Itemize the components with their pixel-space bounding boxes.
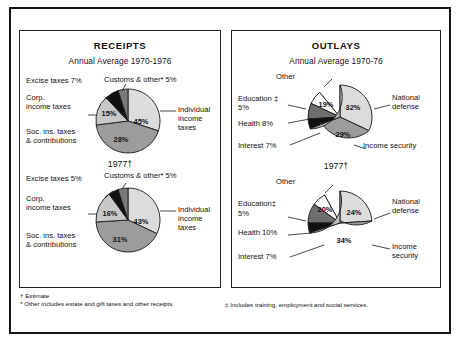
receipts-chart2-subtitle: 1977†	[20, 159, 220, 169]
receipts-2-label-soc-line1: Soc. ins. taxes	[26, 231, 75, 240]
leader-defense-2	[374, 213, 390, 219]
receipts-2-value-social: 31%	[113, 235, 128, 244]
receipts-chart1-pie: 45% 28% 15%	[80, 81, 180, 159]
receipts-1-label-individual-line3: taxes	[178, 123, 196, 132]
receipts-1-value-individual: 45%	[134, 117, 149, 126]
outlays-1-label-education-line1: Education ‡	[238, 94, 278, 103]
receipts-title: RECEIPTS	[20, 40, 220, 51]
receipts-2-label-corp-line1: Corp.	[26, 194, 45, 203]
leader-other-1	[324, 79, 332, 87]
receipts-1-label-individual-line2: income	[178, 114, 202, 123]
leader-interest-2	[290, 245, 324, 257]
leader-income-security-2	[372, 245, 390, 249]
receipts-2-label-individual-line3: taxes	[178, 223, 196, 232]
leader-health-2	[288, 233, 312, 235]
outlays-2-label-health: Health 10%	[238, 228, 277, 237]
receipts-chart2-pie: 43% 31% 16%	[80, 179, 180, 259]
outlays-2-label-education-line1: Education‡	[238, 199, 276, 208]
outlays-1-value-income-security: 29%	[336, 130, 351, 139]
outlays-chart1-pie: 32% 29% 19%	[288, 79, 398, 159]
receipts-2-label-corp-line2: income taxes	[26, 203, 71, 212]
receipts-2-label-soc-line2: & contributions	[26, 240, 76, 249]
receipts-1-label-corp-line2: income taxes	[26, 102, 71, 111]
receipts-2-label-excise: Excise taxes 5%	[26, 174, 82, 183]
panel-outlays: OUTLAYS Annual Average 1970-76 Other Edu…	[231, 30, 441, 288]
footnote-estimate: † Estimate	[20, 292, 250, 300]
receipts-1-label-soc-line2: & contributions	[26, 136, 76, 145]
receipts-1-value-social: 28%	[114, 135, 129, 144]
leader-other-2	[325, 185, 333, 193]
leader-income-security-1	[354, 145, 366, 149]
receipts-1-label-corp-line1: Corp.	[26, 93, 45, 102]
receipts-chart1-subtitle: Annual Average 1970-1976	[20, 56, 220, 66]
receipts-1-label-soc-line1: Soc. ins. taxes	[26, 127, 75, 136]
receipts-2-value-corp: 16%	[103, 209, 118, 218]
receipts-1-label-individual-line1: Individual	[178, 105, 210, 114]
leader-defense-1	[374, 105, 390, 109]
leader-interest-1	[290, 133, 320, 145]
leader-health-1	[288, 119, 310, 123]
outlays-1-value-defense: 32%	[346, 103, 361, 112]
outlays-2-value-other: 20%	[318, 205, 333, 214]
outlays-title: OUTLAYS	[232, 40, 440, 51]
footnote-training: ‡ Includes training, employment and soci…	[225, 301, 455, 309]
slice-national-defense	[340, 191, 372, 223]
receipts-2-value-individual: 43%	[134, 217, 149, 226]
receipts-1-label-excise: Excise taxes 7%	[26, 76, 82, 85]
receipts-2-label-individual-line2: income	[178, 214, 202, 223]
outlays-1-value-other: 19%	[319, 100, 334, 109]
outlays-1-label-interest: Interest 7%	[238, 141, 276, 150]
receipts-1-value-corp: 15%	[102, 109, 117, 118]
outlays-chart2-pie: 24% 34% 20%	[288, 183, 398, 267]
receipts-2-label-individual-line1: Individual	[178, 205, 210, 214]
outlays-2-label-education-line2: 5%	[238, 209, 249, 218]
leader-education-2	[288, 217, 306, 221]
footnote-other: * Other includes estate and gift taxes a…	[20, 300, 250, 308]
outlays-1-label-health: Health 8%	[238, 119, 273, 128]
outlays-2-value-income-security: 34%	[337, 236, 352, 245]
outlays-1-label-education-line2: 5%	[238, 103, 249, 112]
outlays-2-value-defense: 24%	[347, 208, 362, 217]
panel-receipts: RECEIPTS Annual Average 1970-1976 Excise…	[19, 30, 221, 288]
footnotes-left: † Estimate * Other includes estate and g…	[20, 292, 250, 309]
outlays-chart2-subtitle: 1977†	[232, 161, 440, 171]
outlays-chart1-subtitle: Annual Average 1970-76	[232, 56, 440, 66]
budget-pie-figure: RECEIPTS Annual Average 1970-1976 Excise…	[0, 0, 460, 343]
footnotes-right: ‡ Includes training, employment and soci…	[225, 301, 455, 309]
outlays-2-label-interest: Interest 7%	[238, 252, 276, 261]
leader-education-1	[288, 105, 306, 109]
